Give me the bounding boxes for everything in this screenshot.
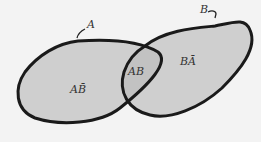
set-a-leader-arrow	[77, 29, 85, 38]
venn-svg: A B AB̄ AB BĀ	[0, 0, 261, 142]
set-b-leader-arrow	[208, 11, 216, 18]
region-b-not-a-label: BĀ	[179, 55, 196, 68]
set-b-label: B	[199, 3, 208, 16]
region-intersection-label: AB	[127, 65, 144, 78]
set-a-label: A	[86, 18, 95, 31]
region-a-not-b-label: AB̄	[69, 83, 86, 96]
venn-diagram: A B AB̄ AB BĀ	[0, 0, 261, 142]
